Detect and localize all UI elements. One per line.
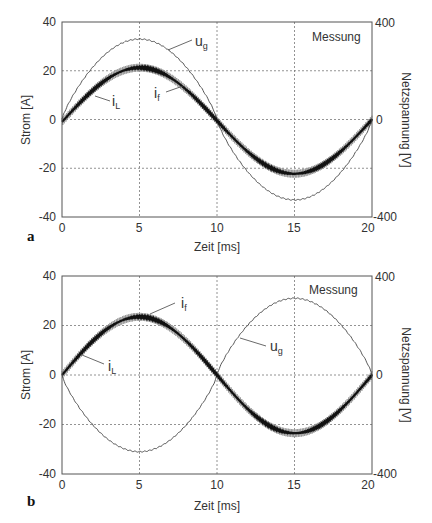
panel-label: a bbox=[27, 228, 35, 244]
leader-line-if bbox=[150, 303, 175, 314]
x-tick-label: 20 bbox=[361, 221, 375, 235]
series-label-ug: ug bbox=[195, 33, 208, 51]
y-tick-label: -20 bbox=[39, 417, 57, 431]
y-tick-label: 40 bbox=[43, 269, 57, 283]
y-right-tick-label: 400 bbox=[375, 270, 395, 284]
series-label-if: if bbox=[181, 295, 187, 313]
leader-line-il bbox=[95, 96, 110, 101]
y-right-tick-label: -400 bbox=[373, 467, 397, 481]
y-tick-label: -40 bbox=[39, 210, 57, 224]
series-label-il: iL bbox=[112, 93, 120, 111]
figure: 40 20 0 -20 -40 400 0 -400 0 5 10 15 20 … bbox=[0, 0, 432, 523]
x-tick-label: 10 bbox=[210, 221, 224, 235]
y-right-tick-label: 400 bbox=[375, 16, 395, 30]
chart-panel-a: 40 20 0 -20 -40 400 0 -400 0 5 10 15 20 … bbox=[19, 15, 413, 254]
annotation-messung: Messung bbox=[312, 30, 361, 44]
x-tick-label: 15 bbox=[287, 478, 301, 492]
x-axis-label: Zeit [ms] bbox=[194, 240, 240, 254]
y-tick-label: 40 bbox=[43, 15, 57, 29]
panel-label: b bbox=[27, 493, 35, 509]
y-right-axis-label: Netzspannung [V] bbox=[399, 327, 413, 422]
leader-line-il bbox=[82, 355, 104, 364]
y-right-tick-label: -400 bbox=[373, 210, 397, 224]
annotation-messung: Messung bbox=[309, 283, 358, 297]
x-tick-label: 20 bbox=[361, 478, 375, 492]
x-tick-label: 0 bbox=[59, 478, 66, 492]
x-tick-label: 5 bbox=[136, 221, 143, 235]
series-label-il: iL bbox=[108, 358, 116, 376]
series-label-if: if bbox=[154, 85, 160, 103]
chart-panel-b: 40 20 0 -20 -40 400 0 -400 0 5 10 15 20 … bbox=[19, 269, 413, 513]
y-tick-label: -20 bbox=[39, 161, 57, 175]
y-axis-label: Strom [A] bbox=[19, 95, 33, 145]
y-tick-label: 20 bbox=[43, 64, 57, 78]
y-tick-label: 0 bbox=[49, 368, 56, 382]
y-tick-label: 0 bbox=[49, 113, 56, 127]
leader-line-ug bbox=[240, 338, 266, 346]
x-axis-label: Zeit [ms] bbox=[194, 499, 240, 513]
leader-line-ug bbox=[168, 40, 192, 50]
x-tick-label: 0 bbox=[59, 221, 66, 235]
y-axis-label: Strom [A] bbox=[19, 350, 33, 400]
x-tick-label: 15 bbox=[287, 221, 301, 235]
y-right-axis-label: Netzspannung [V] bbox=[399, 72, 413, 167]
x-tick-label: 5 bbox=[136, 478, 143, 492]
y-right-tick-label: 0 bbox=[376, 368, 383, 382]
y-tick-label: -40 bbox=[39, 467, 57, 481]
y-right-tick-label: 0 bbox=[376, 113, 383, 127]
y-tick-label: 20 bbox=[43, 318, 57, 332]
x-tick-label: 10 bbox=[210, 478, 224, 492]
leader-line-if bbox=[166, 86, 183, 92]
series-label-ug: ug bbox=[270, 338, 283, 356]
